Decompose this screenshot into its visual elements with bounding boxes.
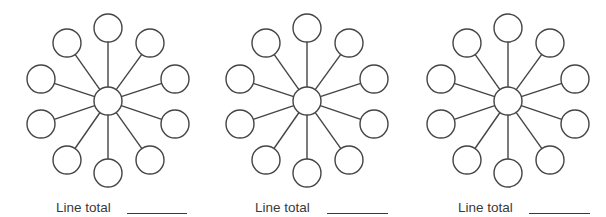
spoke-line-bottom-left [274,113,299,149]
node-circle-bottom[interactable] [293,159,321,187]
spoke-line-upper-left [75,54,100,89]
spoke-line-lower-right [121,106,162,120]
spoke-line-upper-right [116,54,142,89]
spoke-line-bottom-right [315,112,341,148]
spoke-line-left [454,83,494,96]
line-total-label-2: Line total [255,201,310,215]
spoke-diagram-worksheet: Line total Line total Line total [0,0,606,217]
node-circle-top[interactable] [494,14,522,42]
line-total-label-1: Line total [56,201,111,215]
node-circle-upper-left[interactable] [53,29,81,57]
node-circle-lower-right[interactable] [161,110,189,138]
spoke-line-bottom-left [475,113,500,149]
line-total-blank-3[interactable] [529,213,590,214]
node-circle-bottom-right[interactable] [536,146,564,174]
spoke-line-bottom-right [516,112,542,148]
spoke-line-right [121,83,161,96]
spoke-line-right [320,83,360,96]
spoke-line-upper-right [516,54,542,89]
node-circle-bottom-left[interactable] [453,146,481,174]
spoke-line-lower-right [521,106,562,120]
node-circle-upper-right[interactable] [136,29,164,57]
spoke-line-upper-left [274,54,299,89]
line-total-label-3: Line total [458,201,513,215]
node-circle-bottom-right[interactable] [136,146,164,174]
node-circle-top[interactable] [293,14,321,42]
spoke-line-lower-left [454,106,495,120]
node-circle-right[interactable] [161,65,189,93]
hub-circle[interactable] [293,87,321,115]
spoke-diagram-1 [27,14,189,187]
node-circle-lower-left[interactable] [226,110,254,138]
node-circle-bottom[interactable] [494,159,522,187]
node-circle-left[interactable] [27,65,55,93]
hub-circle[interactable] [94,87,122,115]
spoke-line-upper-left [475,54,500,89]
spoke-line-lower-right [320,106,361,120]
spoke-line-left [54,83,94,96]
node-circle-left[interactable] [427,65,455,93]
node-circle-upper-left[interactable] [453,29,481,57]
spoke-diagram-3 [427,14,589,187]
node-circle-bottom[interactable] [94,159,122,187]
hub-circle[interactable] [494,87,522,115]
spoke-line-lower-left [253,106,294,120]
node-circle-bottom-right[interactable] [335,146,363,174]
spoke-diagrams-canvas [0,0,606,217]
spoke-line-right [521,83,561,96]
spoke-diagram-2 [226,14,388,187]
node-circle-bottom-left[interactable] [252,146,280,174]
spoke-line-bottom-right [116,112,142,148]
node-circle-lower-left[interactable] [27,110,55,138]
node-circle-bottom-left[interactable] [53,146,81,174]
node-circle-upper-left[interactable] [252,29,280,57]
spoke-line-bottom-left [75,113,100,149]
node-circle-top[interactable] [94,14,122,42]
node-circle-upper-right[interactable] [335,29,363,57]
spoke-line-left [253,83,293,96]
spoke-line-upper-right [315,54,341,89]
node-circle-lower-left[interactable] [427,110,455,138]
line-total-blank-1[interactable] [127,213,187,214]
node-circle-lower-right[interactable] [360,110,388,138]
spoke-line-lower-left [54,106,95,120]
node-circle-right[interactable] [360,65,388,93]
node-circle-right[interactable] [561,65,589,93]
line-total-blank-2[interactable] [327,213,388,214]
node-circle-left[interactable] [226,65,254,93]
node-circle-upper-right[interactable] [536,29,564,57]
node-circle-lower-right[interactable] [561,110,589,138]
